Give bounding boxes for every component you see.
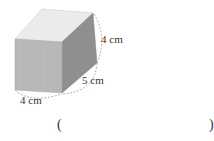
prism-front-face	[15, 39, 62, 93]
answer-open-paren: (	[57, 117, 62, 133]
width-label: 4 cm	[20, 94, 42, 106]
depth-label: 5 cm	[82, 74, 104, 86]
prism-diagram	[0, 0, 214, 141]
height-label: 4 cm	[101, 33, 123, 45]
answer-close-paren: )	[209, 117, 214, 133]
